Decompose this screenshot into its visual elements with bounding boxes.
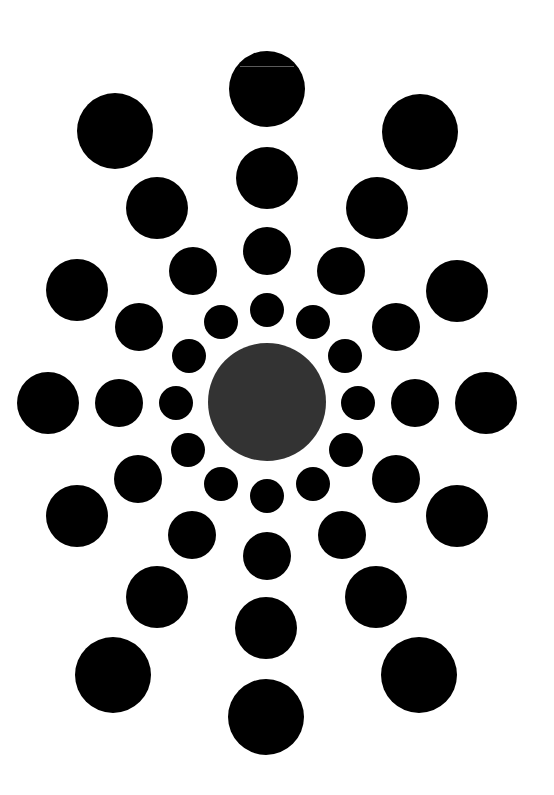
ring-3-dot [17,372,79,434]
ring-4-dot [382,94,458,170]
ring-1-dot [204,467,238,501]
ring-3-dot [235,597,297,659]
ring-2-dot [243,227,291,275]
ring-3-dot [455,372,517,434]
ring-4-dot [228,679,304,755]
ring-1-dot [296,467,330,501]
ring-3-dot [345,566,407,628]
ring-1-dot [341,386,375,420]
ring-3-dot [126,566,188,628]
ring-2-dot [372,455,420,503]
ring-2-dot [115,303,163,351]
ring-1-dot [296,305,330,339]
scan-line-artifact [240,66,294,67]
ring-1-dot [250,479,284,513]
ring-4-dot [229,51,305,127]
ring-4-dot [381,637,457,713]
ring-2-dot [318,511,366,559]
ring-2-dot [372,303,420,351]
radial-dot-pattern [0,0,554,795]
ring-1-dot [171,433,205,467]
ring-2-dot [391,379,439,427]
ring-2-dot [114,455,162,503]
ring-2-dot [169,247,217,295]
ring-3-dot [46,485,108,547]
ring-1-dot [159,386,193,420]
ring-3-dot [126,177,188,239]
ring-3-dot [236,147,298,209]
ring-1-dot [328,339,362,373]
ring-2-dot [168,511,216,559]
ring-3-dot [426,260,488,322]
ring-4-dot [75,637,151,713]
ring-1-dot [250,293,284,327]
center-circle [208,343,326,461]
ring-2-dot [317,247,365,295]
ring-2-dot [95,379,143,427]
ring-3-dot [426,485,488,547]
ring-1-dot [172,339,206,373]
ring-3-dot [46,259,108,321]
ring-2-dot [243,532,291,580]
ring-3-dot [346,177,408,239]
ring-1-dot [329,433,363,467]
ring-4-dot [77,93,153,169]
ring-1-dot [204,305,238,339]
